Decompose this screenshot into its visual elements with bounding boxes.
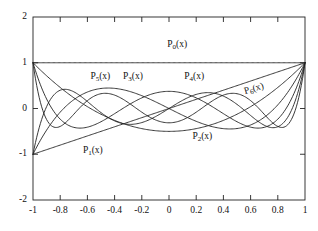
curve-label-subscript: 5 — [96, 75, 100, 83]
legendre-polynomials-figure: -1-0.8-0.6-0.4-0.200.20.40.60.81 -2-1012… — [0, 0, 318, 231]
curve-label-tail: (x) — [99, 71, 110, 81]
x-tick-label: -0.4 — [107, 206, 122, 216]
x-tick-label: -0.6 — [80, 206, 95, 216]
x-tick-label: 0.8 — [272, 206, 284, 216]
y-tick-label: 1 — [22, 58, 27, 68]
curve-paths — [33, 63, 305, 155]
curve-label-p3x: P3(x) — [123, 72, 143, 82]
curve-label-p4x: P4(x) — [184, 72, 204, 82]
curve-label-tail: (x) — [132, 71, 143, 81]
curve-label-p2x: P2(x) — [192, 132, 212, 142]
curve-label-subscript: 2 — [198, 135, 202, 143]
x-tick-label: -0.2 — [134, 206, 149, 216]
y-tick-label: -2 — [19, 195, 27, 205]
curve-label-subscript: 0 — [173, 44, 177, 52]
y-tick-label: 2 — [22, 12, 27, 22]
curve-label-p0x: P0(x) — [167, 41, 187, 51]
x-tick-label: -1 — [29, 206, 37, 216]
curve-label-subscript: 1 — [88, 149, 92, 157]
curve-label-p5x: P5(x) — [90, 72, 110, 82]
x-tick-label: 0 — [167, 206, 172, 216]
x-tick-label: 0.6 — [245, 206, 257, 216]
x-tick-label: 0.2 — [190, 206, 202, 216]
curve-label-p1x: P1(x) — [83, 146, 103, 156]
y-tick-label: -1 — [19, 150, 27, 160]
x-tick-label: -0.8 — [53, 206, 68, 216]
curve-label-subscript: 3 — [128, 75, 132, 83]
curve-label-tail: (x) — [193, 71, 204, 81]
curve-p4x — [33, 63, 305, 128]
plot-canvas — [0, 0, 318, 231]
x-tick-label: 1 — [303, 206, 308, 216]
y-tick-label: 0 — [22, 104, 27, 114]
x-tick-label: 0.4 — [217, 206, 229, 216]
curve-label-tail: (x) — [201, 131, 212, 141]
curve-label-subscript: 4 — [190, 75, 194, 83]
curve-label-tail: (x) — [176, 40, 187, 50]
curve-p2x — [33, 63, 305, 132]
curve-label-tail: (x) — [92, 145, 103, 155]
